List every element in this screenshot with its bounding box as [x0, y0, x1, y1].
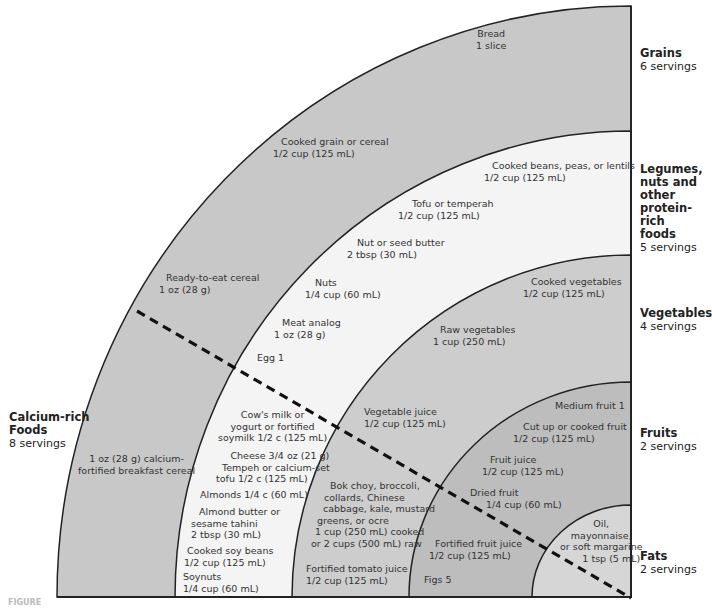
item-line: 1/2 cup (125 mL) — [513, 433, 627, 445]
item-line: 1/2 cup (125 mL) — [398, 210, 494, 222]
item-line: or soft margarine — [560, 541, 643, 553]
item-line: 1/2 cup (125 mL) — [484, 172, 635, 184]
item-line: 1/4 cup (60 mL) — [470, 499, 562, 511]
item-line: Meat analog — [274, 317, 341, 329]
figure-caption: FIGURE — [8, 598, 41, 607]
item-line: Almonds 1/4 c (60 mL) — [200, 489, 308, 501]
item-line: collards, Chinese — [311, 492, 435, 504]
vegetables-item-tomato-juice: Fortified tomato juice 1/2 cup (125 mL) — [306, 563, 408, 586]
item-line: Nut or seed butter — [347, 237, 445, 249]
category-calcium-rich: Calcium-rich Foods 8 servings — [9, 411, 89, 450]
calcium-item-almonds: Almonds 1/4 c (60 mL) — [200, 489, 308, 501]
category-servings: 6 servings — [640, 60, 697, 73]
calcium-item-milk: Cow's milk or yogurt or fortified soymil… — [218, 409, 327, 444]
item-line: fortified breakfast cereal — [78, 465, 195, 477]
category-servings: 2 servings — [640, 440, 697, 453]
grains-item-bread: Bread 1 slice — [476, 28, 506, 51]
calcium-item-soynuts: Soynuts 1/4 cup (60 mL) — [183, 571, 259, 594]
item-line: Figs 5 — [424, 574, 451, 586]
item-line: 1 oz (28 g) — [274, 329, 341, 341]
grains-item-ready-to-eat-cereal: Ready-to-eat cereal 1 oz (28 g) — [159, 272, 259, 295]
item-line: 1 oz (28 g) — [159, 284, 259, 296]
item-line: Vegetable juice — [364, 406, 446, 418]
category-servings: 8 servings — [9, 437, 66, 450]
item-line: Medium fruit 1 — [555, 400, 625, 412]
item-line: Fortified fruit juice — [429, 538, 522, 550]
item-line: Cow's milk or — [218, 409, 327, 421]
item-line: 1 cup (250 mL) cooked — [311, 526, 435, 538]
item-line: Egg 1 — [257, 352, 284, 364]
fruits-item-juice: Fruit juice 1/2 cup (125 mL) — [482, 454, 564, 477]
item-line: 1/2 cup (125 mL) — [184, 557, 273, 569]
item-line: Cooked beans, peas, or lentils — [484, 160, 635, 172]
category-vegetables: Vegetables 4 servings — [640, 307, 712, 333]
item-line: Cut up or cooked fruit — [513, 421, 627, 433]
category-grains: Grains 6 servings — [640, 47, 697, 73]
item-line: Bread — [476, 28, 506, 40]
item-line: 1/2 cup (125 mL) — [523, 288, 622, 300]
item-line: Almond butter or — [191, 506, 280, 518]
item-line: Tofu or temperah — [398, 198, 494, 210]
item-line: 2 tbsp (30 mL) — [191, 529, 280, 541]
legumes-item-cooked-beans: Cooked beans, peas, or lentils 1/2 cup (… — [484, 160, 635, 183]
item-line: 1 oz (28 g) calcium- — [78, 453, 195, 465]
item-line: Oil, — [560, 518, 643, 530]
legumes-item-nut-butter: Nut or seed butter 2 tbsp (30 mL) — [347, 237, 445, 260]
category-legumes: Legumes, nuts and other protein-rich foo… — [640, 163, 711, 254]
vegetables-item-raw: Raw vegetables 1 cup (250 mL) — [433, 324, 515, 347]
legumes-item-egg: Egg 1 — [257, 352, 284, 364]
vegetables-item-greens: Bok choy, broccoli, collards, Chinese ca… — [311, 480, 435, 549]
item-line: 2 tbsp (30 mL) — [347, 249, 445, 261]
item-line: Bok choy, broccoli, — [311, 480, 435, 492]
category-fruits: Fruits 2 servings — [640, 427, 697, 453]
item-line: 1 slice — [476, 40, 506, 52]
fats-item-oil: Oil, mayonnaise, or soft margarine 1 tsp… — [560, 518, 643, 564]
legumes-item-nuts: Nuts 1/4 cup (60 mL) — [305, 277, 381, 300]
item-line: 1 tsp (5 mL) — [560, 553, 643, 565]
item-line: Nuts — [305, 277, 381, 289]
grains-item-cooked-grain: Cooked grain or cereal 1/2 cup (125 mL) — [273, 136, 389, 159]
legumes-item-tofu: Tofu or temperah 1/2 cup (125 mL) — [398, 198, 494, 221]
item-line: 1/4 cup (60 mL) — [305, 289, 381, 301]
item-line: cabbage, kale, mustard — [311, 503, 435, 515]
category-name: Fats — [640, 550, 697, 563]
item-line: Cooked vegetables — [523, 276, 622, 288]
item-line: Ready-to-eat cereal — [159, 272, 259, 284]
item-line: 1/2 cup (125 mL) — [306, 575, 408, 587]
category-servings: 4 servings — [640, 320, 697, 333]
vegetables-item-juice: Vegetable juice 1/2 cup (125 mL) — [364, 406, 446, 429]
item-line: 1/2 cup (125 mL) — [429, 550, 522, 562]
item-line: greens, or ocre — [311, 515, 435, 527]
fruits-item-fortified-juice: Fortified fruit juice 1/2 cup (125 mL) — [429, 538, 522, 561]
fruits-item-medium-fruit: Medium fruit 1 — [555, 400, 625, 412]
category-name: Vegetables — [640, 307, 712, 320]
category-name-line: foods — [640, 228, 711, 241]
category-name: Grains — [640, 47, 697, 60]
category-fats: Fats 2 servings — [640, 550, 697, 576]
item-line: 1/4 cup (60 mL) — [183, 583, 259, 595]
item-line: sesame tahini — [191, 518, 280, 530]
category-servings: 5 servings — [640, 241, 697, 254]
fruits-item-cut-up: Cut up or cooked fruit 1/2 cup (125 mL) — [513, 421, 627, 444]
item-line: 1 cup (250 mL) — [433, 336, 515, 348]
calcium-item-almond-butter: Almond butter or sesame tahini 2 tbsp (3… — [191, 506, 280, 541]
item-line: Tempeh or calcium-set — [216, 462, 330, 474]
category-name-line: Foods — [9, 424, 89, 437]
legumes-item-meat-analog: Meat analog 1 oz (28 g) — [274, 317, 341, 340]
item-line: Cheese 3/4 oz (21 g) — [216, 450, 330, 462]
item-line: 1/2 cup (125 mL) — [273, 148, 389, 160]
fruits-item-figs: Figs 5 — [424, 574, 451, 586]
grains-item-calcium-cereal: 1 oz (28 g) calcium- fortified breakfast… — [78, 453, 195, 476]
item-line: Cooked soy beans — [184, 545, 273, 557]
category-servings: 2 servings — [640, 563, 697, 576]
item-line: mayonnaise, — [560, 530, 643, 542]
vegetables-item-cooked: Cooked vegetables 1/2 cup (125 mL) — [523, 276, 622, 299]
calcium-item-soy-beans: Cooked soy beans 1/2 cup (125 mL) — [184, 545, 273, 568]
category-name-line: protein-rich — [640, 202, 711, 228]
item-line: Raw vegetables — [433, 324, 515, 336]
item-line: 1/2 cup (125 mL) — [482, 466, 564, 478]
item-line: or 2 cups (500 mL) raw — [311, 538, 435, 550]
item-line: Cooked grain or cereal — [273, 136, 389, 148]
item-line: soymilk 1/2 c (125 mL) — [218, 432, 327, 444]
category-name: Fruits — [640, 427, 697, 440]
